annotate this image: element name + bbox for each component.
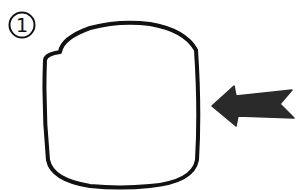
left-arrow-icon bbox=[212, 86, 294, 126]
diagram-canvas bbox=[0, 0, 304, 190]
rounded-square-shape bbox=[44, 23, 198, 188]
step-number: 1 bbox=[9, 12, 35, 38]
